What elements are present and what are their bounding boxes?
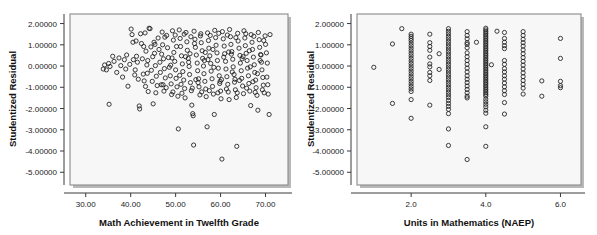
x-tick-label: 2.0 (406, 200, 418, 209)
x-tick-label: 4.0 (480, 200, 492, 209)
y-tick-label: -2.00000 (25, 105, 57, 114)
x-axis-ticks: 30.0040.0050.0060.0070.00 (76, 193, 276, 209)
x-tick-label: 30.00 (76, 200, 97, 209)
y-tick-label: -5.00000 (312, 168, 344, 177)
y-tick-label: 1.00000 (28, 41, 57, 50)
x-tick-label: 6.0 (555, 200, 567, 209)
x-axis-title: Math Achievement in Twelfth Grade (99, 217, 259, 228)
y-axis-title: Studentized Residual (305, 51, 316, 147)
y-tick-label: -2.00000 (312, 105, 344, 114)
x-axis-title: Units in Mathematics (NAEP) (404, 217, 534, 228)
y-tick-label: 1.00000 (315, 41, 344, 50)
x-tick-label: 70.00 (256, 200, 277, 209)
left-scatter-panel: 2.000001.000000.00000-1.00000-2.00000-3.… (0, 0, 298, 235)
x-tick-label: 40.00 (121, 200, 142, 209)
y-tick-label: 0.00000 (28, 62, 57, 71)
y-axis-title: Studentized Residual (7, 51, 18, 147)
x-tick-label: 50.00 (166, 200, 187, 209)
y-tick-label: -5.00000 (25, 168, 57, 177)
x-tick-label: 60.00 (211, 200, 232, 209)
y-tick-label: -4.00000 (25, 147, 57, 156)
y-tick-label: -4.00000 (312, 147, 344, 156)
y-tick-label: -1.00000 (25, 83, 57, 92)
y-axis-ticks: 2.000001.000000.00000-1.00000-2.00000-3.… (25, 20, 64, 178)
x-axis-ticks: 2.04.06.0 (406, 193, 567, 209)
y-tick-label: 2.00000 (28, 20, 57, 29)
left-scatter-chart: 2.000001.000000.00000-1.00000-2.00000-3.… (0, 0, 298, 235)
y-axis-ticks: 2.000001.000000.00000-1.00000-2.00000-3.… (312, 20, 351, 178)
y-tick-label: -1.00000 (312, 83, 344, 92)
y-tick-label: 2.00000 (315, 20, 344, 29)
right-scatter-chart: 2.000001.000000.00000-1.00000-2.00000-3.… (298, 0, 597, 235)
y-tick-label: -3.00000 (312, 126, 344, 135)
y-tick-label: 0.00000 (315, 62, 344, 71)
residual-plots-figure: 2.000001.000000.00000-1.00000-2.00000-3.… (0, 0, 597, 235)
y-tick-label: -3.00000 (25, 126, 57, 135)
right-scatter-panel: 2.000001.000000.00000-1.00000-2.00000-3.… (298, 0, 596, 235)
